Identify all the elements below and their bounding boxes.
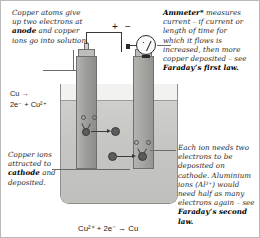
anode-equation-line1: Cu →	[10, 89, 29, 99]
anode-cap	[78, 49, 95, 57]
anode-note: Copper atoms give up two electrons at an…	[12, 8, 120, 45]
ammeter-foot	[142, 55, 150, 58]
wire-ammeter-right-stub	[143, 42, 144, 43]
ammeter-note-line6: copper deposited – see	[163, 54, 246, 63]
electron-anode-2	[92, 115, 97, 120]
anode-terminal-post	[84, 43, 89, 50]
second-law-note: Each ion needs two electrons to be depos…	[178, 143, 258, 226]
anode-note-bold: anode	[12, 26, 36, 35]
second-law-leader	[150, 150, 176, 151]
second-law-line2: electrons to be	[178, 152, 232, 161]
ammeter-note-bold: Ammeter*	[163, 8, 204, 17]
ammeter-symbol	[136, 35, 156, 55]
ammeter-needle	[146, 41, 152, 51]
cathode-note-line1: Copper ions	[8, 150, 52, 159]
second-law-line7: electrons again – see	[178, 198, 255, 207]
ammeter-leader	[157, 45, 171, 46]
second-law-line5: ions (Al³⁺) would	[178, 180, 239, 189]
cathode-note-line4: deposited.	[8, 178, 46, 187]
ammeter-note-line2: current – if current or	[163, 17, 243, 26]
battery-positive-sign: +	[112, 22, 118, 32]
anode-equation-line2: 2e⁻ + Cu²⁺	[10, 100, 47, 110]
ammeter-note-line3: length of time for	[163, 26, 227, 35]
ion-arrow-cathode-line	[117, 156, 133, 157]
ammeter-note-line5: increased, then more	[163, 45, 241, 54]
faraday-second-law-label-2: law.	[178, 217, 193, 226]
battery-negative-sign: −	[125, 22, 131, 32]
battery-long-plate	[121, 41, 122, 52]
ammeter-note-rest1: measures	[204, 8, 241, 17]
electron-anode-1	[81, 115, 86, 120]
anode-note-line1: Copper atoms give	[12, 8, 80, 17]
overall-equation: Cu²⁺ + 2e⁻ → Cu	[78, 224, 138, 234]
ion-arrow-anode-line	[91, 131, 108, 132]
copper-ion-moving-to-cathode	[108, 152, 117, 161]
anode-leader-horizontal	[43, 70, 74, 71]
electron-cathode-1	[134, 140, 139, 145]
ion-arrow-cathode-head	[132, 154, 136, 158]
anode-leader-vertical	[73, 50, 74, 71]
faraday-first-law-label: Faraday’s first law.	[163, 63, 239, 72]
anode-note-line2: up two electrons at	[12, 17, 82, 26]
second-law-line1: Each ion needs two	[178, 143, 249, 152]
second-law-line3: deposited on	[178, 161, 225, 170]
cathode-note-line2: attracted to	[8, 159, 51, 168]
anode-electrode	[76, 56, 97, 169]
wire-left-to-battery	[86, 32, 122, 33]
electrolysis-diagram: Copper atoms give up two electrons at an…	[0, 0, 260, 238]
second-law-line6: need half as many	[178, 189, 244, 198]
ammeter-note-line4: which it flows is	[163, 36, 222, 45]
faraday-second-law-label: Faraday’s second	[178, 207, 247, 216]
anode-note-line4: ions go into solution.	[12, 36, 88, 45]
second-law-line4: cathode. Aluminium	[178, 171, 251, 180]
cathode-note-bold: cathode	[8, 168, 40, 177]
copper-deposited-cathode	[138, 152, 147, 161]
wire-left-vertical	[86, 32, 87, 44]
cathode-leader	[52, 169, 130, 170]
copper-atom-anode	[82, 128, 90, 136]
ammeter-note: Ammeter* measures current – if current o…	[163, 8, 258, 72]
copper-ion-in-solution	[111, 127, 120, 136]
anode-note-line3-rest: and copper	[36, 26, 79, 35]
electron-cathode-2	[146, 140, 151, 145]
